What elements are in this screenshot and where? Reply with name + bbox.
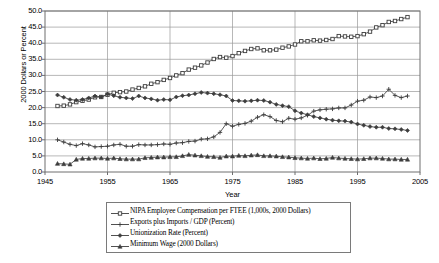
- x-tick-label: 1975: [213, 177, 253, 186]
- legend-item: Minimum Wage (2000 Dollars): [110, 238, 347, 249]
- legend-marker: [118, 234, 122, 238]
- x-tick-label: 1995: [338, 177, 378, 186]
- x-tick-label: 1965: [150, 177, 190, 186]
- legend-triangle-icon: [110, 238, 130, 249]
- chart-container: 2000 Dollars or Percent 0.05.010.015.020…: [0, 0, 439, 263]
- x-tick-label: 1955: [88, 177, 128, 186]
- legend-diamond-icon: [110, 227, 130, 238]
- legend-label: NIPA Employee Compensation per FTEE (1,0…: [130, 206, 311, 215]
- x-tick-label: 1945: [25, 177, 65, 186]
- legend-label: Unionization Rate (Percent): [130, 228, 208, 237]
- x-axis-title: Year: [45, 190, 420, 199]
- x-tick-label: 1985: [275, 177, 315, 186]
- legend-marker: [118, 212, 121, 215]
- legend-item: Unionization Rate (Percent): [110, 227, 347, 238]
- legend-plus-icon: [110, 216, 130, 227]
- legend-square-icon: [110, 205, 130, 216]
- legend-item: NIPA Employee Compensation per FTEE (1,0…: [110, 205, 347, 216]
- x-tick-label: 2005: [400, 177, 439, 186]
- legend-label: Exports plus Imports / GDP (Percent): [130, 217, 234, 226]
- chart-legend: NIPA Employee Compensation per FTEE (1,0…: [106, 202, 351, 253]
- legend-item: Exports plus Imports / GDP (Percent): [110, 216, 347, 227]
- legend-label: Minimum Wage (2000 Dollars): [130, 239, 218, 248]
